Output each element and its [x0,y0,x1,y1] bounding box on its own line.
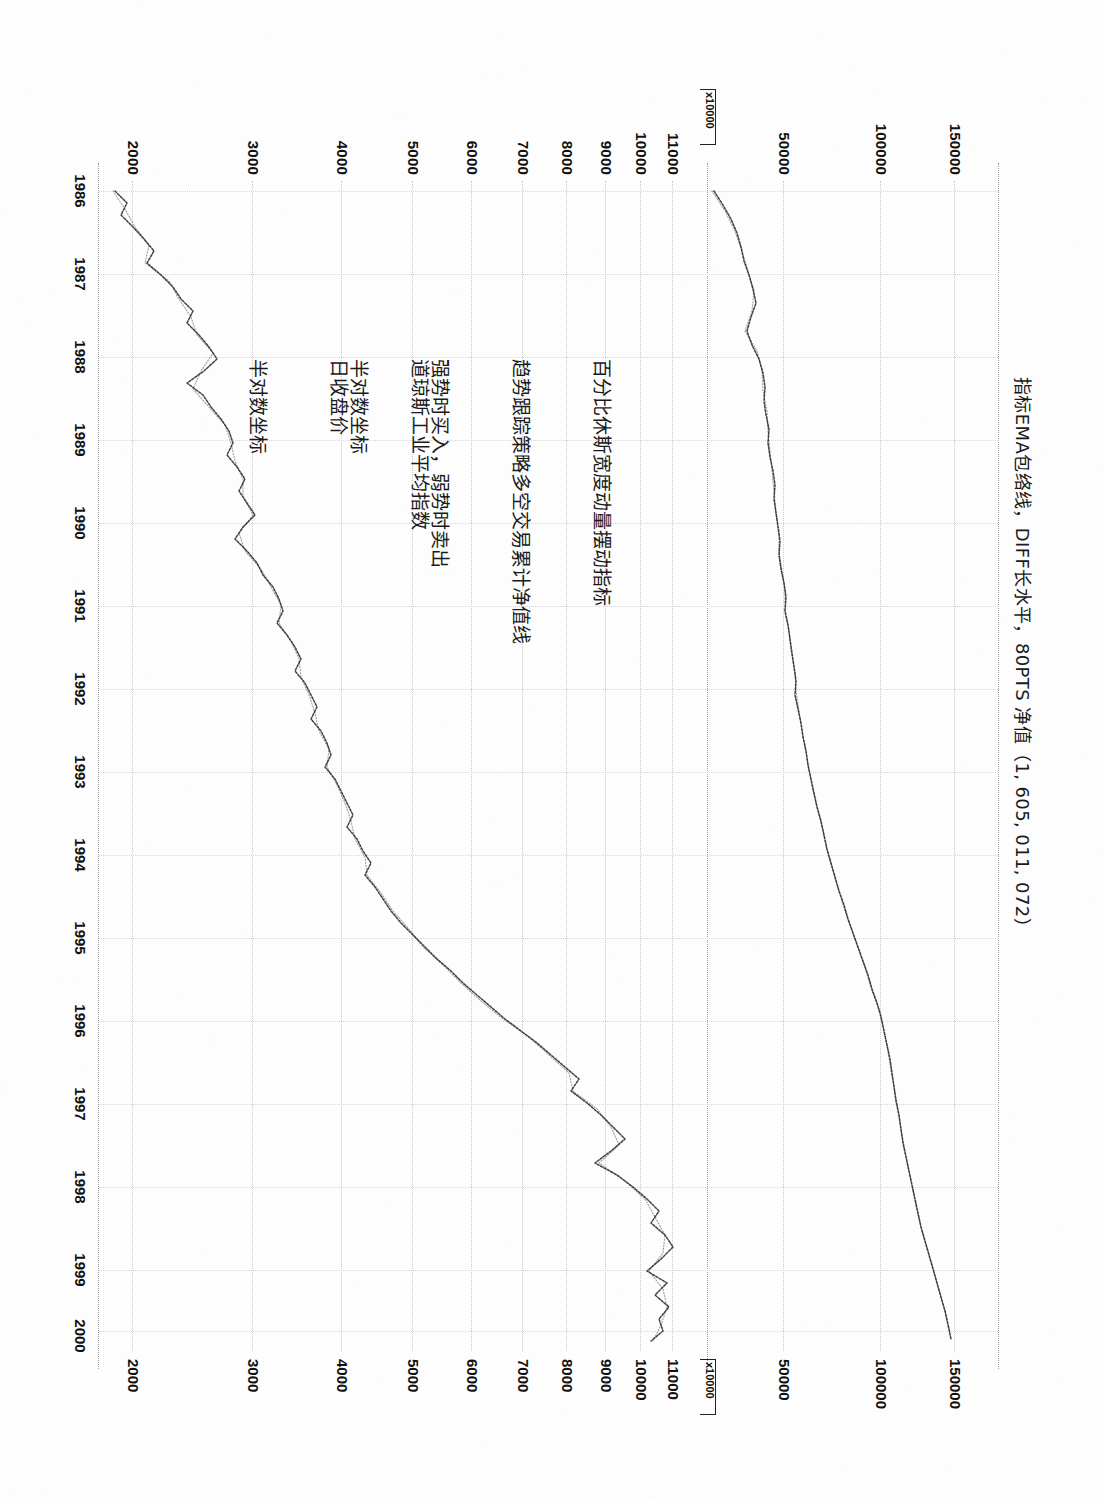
ytick-right-index-8000: 8000 [559,1359,576,1392]
scan-speckle [487,1441,488,1442]
scan-speckle [1078,243,1079,244]
right-unit-label: x10000 [704,1362,716,1399]
series-equity-path [714,191,951,1339]
xtick-1993: 1993 [72,755,89,788]
ytick-index-8000: 8000 [559,141,576,175]
scan-speckle [32,435,33,436]
ytick-right-index-2000: 2000 [125,1359,142,1392]
scan-speckle [1007,48,1008,49]
scan-speckle [1060,999,1061,1000]
annotation-index-line-1: 道琼斯工业平均指数 [406,359,433,530]
ytick-index-6000: 6000 [464,141,481,175]
plot-area: 150000 100000 50000 x10000 11000 10000 9… [99,181,999,1351]
left-unit-label: x10000 [704,92,716,129]
annotation-index-line-3: 半对数坐标 [244,359,271,530]
scan-speckle [1080,757,1081,758]
ytick-right-index-4000: 4000 [334,1359,351,1392]
ytick-equity-50000: 50000 [776,132,793,175]
ytick-index-10000: 10000 [633,132,650,175]
ytick-right-equity-150000: 150000 [947,1359,964,1409]
ytick-right-index-3000: 3000 [245,1359,262,1392]
scan-speckle [1098,848,1099,849]
xtick-1986: 1986 [72,174,89,207]
xtick-1998: 1998 [72,1170,89,1203]
xtick-1997: 1997 [72,1087,89,1120]
series-equity-noise [712,191,950,1331]
ytick-index-4000: 4000 [334,141,351,175]
ytick-right-index-6000: 6000 [464,1359,481,1392]
ytick-index-5000: 5000 [405,141,422,175]
scan-speckle [11,1495,12,1496]
annotation-index: 道琼斯工业平均指数 日收盘价 半对数坐标 [190,359,487,530]
annotation-equity-line-1: 百分比休斯宽度动量摆动指标 [588,359,615,644]
xtick-1990: 1990 [72,506,89,539]
ytick-right-index-11000: 11000 [665,1359,682,1400]
scan-speckle [23,298,24,299]
ytick-equity-100000: 100000 [873,124,890,175]
ytick-right-equity-50000: 50000 [776,1359,793,1401]
xtick-1991: 1991 [72,589,89,622]
xtick-1996: 1996 [72,1004,89,1037]
scan-speckle [816,36,817,37]
scan-speckle [1083,102,1085,104]
scan-speckle [5,1081,6,1082]
ytick-right-index-10000: 10000 [633,1359,650,1401]
scan-speckle [655,1496,656,1497]
chart-title: 指标EMA包络线，DIFF长水平，80PTS 净值（1, 605, 011, 0… [1011,377,1037,936]
ytick-right-index-7000: 7000 [515,1359,532,1392]
xtick-1988: 1988 [72,340,89,373]
ytick-equity-150000: 150000 [947,124,964,175]
xtick-1994: 1994 [72,838,89,871]
scan-speckle [28,324,29,325]
annotation-index-line-2: 日收盘价 [325,359,352,530]
xtick-1995: 1995 [72,921,89,954]
scan-speckle [1098,467,1099,468]
scan-speckle [268,33,270,35]
scan-speckle [944,1464,945,1465]
scan-speckle [137,7,138,8]
scan-speckle [4,214,5,215]
scan-speckle [46,1493,47,1494]
scan-speckle [24,92,25,93]
ytick-right-index-5000: 5000 [405,1359,422,1392]
xtick-1999: 1999 [72,1253,89,1286]
scan-speckle [1057,1379,1058,1380]
scan-speckle [500,36,501,37]
rotated-chart-canvas: 指标EMA包络线，DIFF长水平，80PTS 净值（1, 605, 011, 0… [47,61,1057,1441]
xtick-1987: 1987 [72,257,89,290]
ytick-index-9000: 9000 [598,141,615,175]
ytick-right-equity-100000: 100000 [873,1359,890,1409]
scan-speckle [1060,1228,1061,1229]
scan-speckle [1095,900,1096,901]
xtick-2000: 2000 [72,1319,89,1352]
ytick-index-2000: 2000 [125,141,142,175]
annotation-equity-line-2: 趋势跟踪策略多空交易累计净值线 [507,359,534,644]
scan-speckle [842,1470,843,1471]
ytick-index-7000: 7000 [515,141,532,175]
xtick-1989: 1989 [72,423,89,456]
ytick-right-index-9000: 9000 [598,1359,615,1392]
xtick-1992: 1992 [72,672,89,705]
series-canvas [99,181,999,1351]
ytick-index-3000: 3000 [245,141,262,175]
ytick-index-11000: 11000 [665,133,682,175]
scan-speckle [7,1089,8,1090]
